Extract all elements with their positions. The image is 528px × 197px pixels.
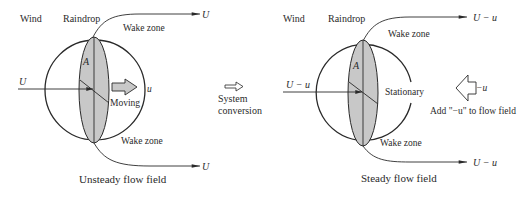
system-conversion: System conversion xyxy=(218,82,262,116)
wake-bottom-label-left: Wake zone xyxy=(121,136,163,146)
caption-left: Unsteady flow field xyxy=(79,173,167,185)
diagram-canvas: Wind Raindrop U Wake zone A U u Moving U… xyxy=(0,0,528,197)
hollow-left-arrow-icon xyxy=(456,75,476,101)
streamline-bottom-left xyxy=(94,143,200,166)
inflow-label-left: U xyxy=(19,76,27,87)
moving-label: Moving xyxy=(110,98,140,108)
outflow-top-label-right: U − u xyxy=(473,12,497,23)
wake-top-label-right: Wake zone xyxy=(388,29,430,39)
left-panel-unsteady: Wind Raindrop U Wake zone A U u Moving U… xyxy=(18,9,210,185)
add-note-label: Add "−u" to flow field xyxy=(430,106,516,116)
streamline-bottom-right xyxy=(363,146,467,162)
outflow-bottom-label-right: U − u xyxy=(473,157,497,168)
hollow-right-arrow-icon xyxy=(225,82,243,91)
outflow-top-label-left: U xyxy=(202,9,210,20)
added-velocity-label: −u xyxy=(476,83,487,93)
conversion-label-line2: conversion xyxy=(218,105,262,116)
wake-bottom-label-right: Wake zone xyxy=(380,138,422,148)
caption-right: Steady flow field xyxy=(361,172,437,184)
stationary-label: Stationary xyxy=(385,87,424,97)
raindrop-label-left: Raindrop xyxy=(63,13,100,24)
wind-label-left: Wind xyxy=(20,13,42,24)
area-label-right: A xyxy=(352,60,360,71)
outflow-bottom-label-left: U xyxy=(202,161,210,172)
wind-label-right: Wind xyxy=(283,13,305,24)
right-panel-steady: Wind Raindrop U − u Wake zone A U − u St… xyxy=(283,12,516,184)
moving-arrow-icon xyxy=(112,79,137,95)
inflow-label-right: U − u xyxy=(286,79,310,90)
raindrop-label-right: Raindrop xyxy=(328,13,365,24)
conversion-label-line1: System xyxy=(218,93,248,104)
area-label-left: A xyxy=(82,56,90,67)
wake-top-label-left: Wake zone xyxy=(123,23,165,33)
velocity-label-left: u xyxy=(147,84,152,94)
